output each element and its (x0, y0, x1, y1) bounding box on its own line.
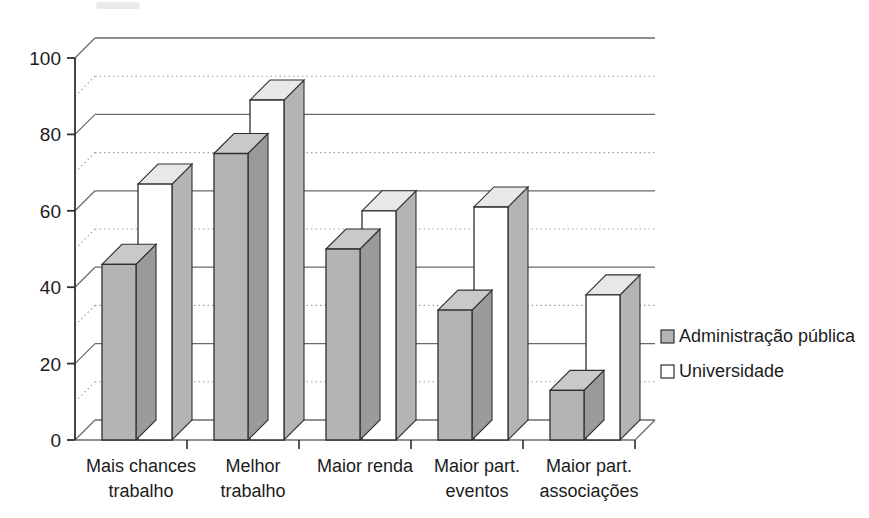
gridline-connector-100 (75, 38, 95, 58)
bar-side-face (396, 191, 416, 440)
category-label-2-line2: trabalho (220, 481, 285, 501)
gridline-connector-20 (75, 344, 95, 364)
gridline-connector-40 (75, 267, 95, 287)
y-tick-label-40: 40 (40, 277, 61, 298)
category-label-1-line2: trabalho (108, 481, 173, 501)
y-tick-label-80: 80 (40, 124, 61, 145)
gridline-connector-10 (75, 382, 95, 402)
legend-item-1[interactable]: Administração pública (661, 326, 856, 346)
bar-group-2 (214, 80, 304, 440)
bar-side-face (472, 290, 492, 440)
gridline-connector-30 (75, 305, 95, 325)
bar-side-face (248, 134, 268, 441)
gridline-connector-70 (75, 153, 95, 173)
bar-3-administracao (326, 229, 380, 440)
y-tick-label-60: 60 (40, 201, 61, 222)
bar-group-4 (438, 187, 528, 440)
category-label-4-line1: Maior part. (434, 456, 520, 476)
x-axis-categories: Mais chancestrabalhoMelhortrabalhoMaior … (86, 440, 639, 501)
bar-side-face (360, 229, 380, 440)
gridline-connector-90 (75, 76, 95, 96)
legend-label-1: Administração pública (679, 326, 856, 346)
bar-side-face (620, 275, 640, 440)
bar-group-5 (550, 275, 640, 440)
category-label-5-line1: Maior part. (546, 456, 632, 476)
bar-front-face (102, 264, 136, 440)
chart-figure: 020406080100Mais chancestrabalhoMelhortr… (0, 0, 869, 518)
y-tick-label-0: 0 (50, 430, 61, 451)
bar-4-administracao (438, 290, 492, 440)
legend-label-2: Universidade (679, 361, 784, 381)
gridline-connector-80 (75, 114, 95, 134)
bar-front-face (326, 249, 360, 440)
gridline-connector-60 (75, 191, 95, 211)
legend-swatch-2 (661, 365, 674, 378)
y-tick-label-100: 100 (29, 48, 61, 69)
gridline-connector-0 (75, 420, 95, 440)
bar-side-face (284, 80, 304, 440)
bar-side-face (136, 244, 156, 440)
category-label-1-line1: Mais chances (86, 456, 196, 476)
bar-front-face (550, 390, 584, 440)
legend-swatch-1 (661, 330, 674, 343)
category-label-2-line1: Melhor (225, 456, 280, 476)
category-label-3-line1: Maior renda (317, 456, 414, 476)
y-axis-ticks: 020406080100 (29, 48, 75, 451)
bar-group-3 (326, 191, 416, 440)
bar-side-face (172, 164, 192, 440)
bar-front-face (214, 154, 248, 441)
bar-group-1 (102, 164, 192, 440)
category-label-4-line2: eventos (445, 481, 508, 501)
bar-2-administracao (214, 134, 268, 441)
floor-right-edge (635, 420, 655, 440)
bar-chart-3d: 020406080100Mais chancestrabalhoMelhortr… (0, 0, 869, 518)
y-tick-label-20: 20 (40, 354, 61, 375)
bar-side-face (508, 187, 528, 440)
category-label-5-line2: associações (539, 481, 638, 501)
bar-1-administracao (102, 244, 156, 440)
gridline-connector-50 (75, 229, 95, 249)
legend-item-2[interactable]: Universidade (661, 361, 784, 381)
bars-layer (102, 80, 640, 440)
bar-front-face (438, 310, 472, 440)
legend: Administração públicaUniversidade (661, 326, 856, 381)
